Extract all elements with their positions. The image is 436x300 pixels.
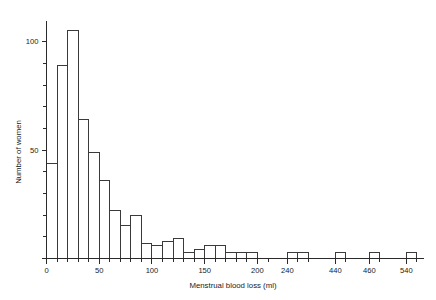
x-axis-tick-label: 50: [95, 266, 103, 275]
x-axis-tick-label: 460: [363, 266, 376, 275]
histogram-bar: [236, 252, 247, 259]
histogram-bar: [406, 252, 417, 259]
bars-group: [47, 31, 417, 259]
histogram-bar: [194, 250, 205, 259]
histogram-bar: [110, 211, 121, 259]
histogram-bar: [226, 252, 237, 259]
histogram-bar: [141, 243, 152, 258]
histogram-bar: [173, 239, 184, 259]
histogram-bar: [68, 31, 79, 259]
x-axis-tick-label: 0: [44, 266, 48, 275]
x-axis-tick-label: 100: [146, 266, 159, 275]
histogram-bar: [120, 226, 131, 259]
x-axis-ticks: [47, 259, 417, 264]
y-axis-tick-label: 100: [26, 37, 39, 46]
plot-area: 50100 050100150200240440460540: [26, 21, 424, 275]
histogram-bar: [163, 241, 174, 258]
histogram-bar: [369, 252, 380, 259]
histogram-figure: 50100 050100150200240440460540 Menstrual…: [0, 0, 436, 300]
y-axis-tick-labels: 50100: [26, 37, 39, 154]
x-axis-tick-label: 200: [251, 266, 264, 275]
histogram-bar: [247, 252, 258, 259]
y-axis-title: Number of women: [14, 120, 23, 184]
x-axis-tick-label: 540: [400, 266, 413, 275]
histogram-bar: [215, 245, 226, 258]
x-axis-tick-label: 440: [329, 266, 342, 275]
histogram-bar: [89, 152, 100, 258]
histogram-bar: [99, 180, 110, 258]
x-axis-tick-labels: 050100150200240440460540: [44, 266, 412, 275]
histogram-bar: [78, 120, 89, 259]
histogram-bar: [287, 252, 298, 259]
histogram-bar: [131, 215, 142, 258]
x-axis-tick-label: 240: [281, 266, 294, 275]
y-axis-tick-label: 50: [30, 146, 38, 155]
histogram-bar: [205, 245, 216, 258]
histogram-bar: [184, 252, 195, 259]
x-axis-title: Menstrual blood loss (ml): [189, 281, 276, 290]
histogram-bar: [47, 163, 58, 258]
histogram-bar: [298, 252, 309, 259]
histogram-bar: [57, 66, 68, 259]
histogram-bar: [335, 252, 346, 259]
y-axis-ticks: [42, 42, 47, 259]
x-axis-tick-label: 150: [198, 266, 211, 275]
histogram-bar: [152, 245, 163, 258]
